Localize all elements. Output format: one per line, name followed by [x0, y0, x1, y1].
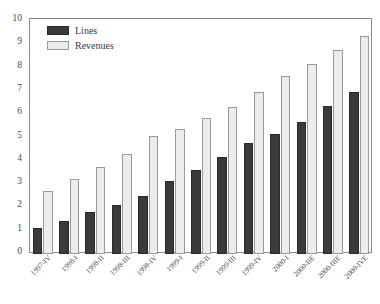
x-tick-label: 1999-I	[165, 254, 185, 274]
y-tick-label: 3	[17, 177, 22, 187]
x-tick-label: 1999-IV	[241, 254, 264, 277]
bar-lines	[112, 205, 122, 254]
bar-lines	[323, 106, 333, 254]
bar-revenues	[333, 50, 343, 254]
legend-label-lines: Lines	[75, 26, 97, 36]
x-tick-label: 1998-II	[84, 254, 105, 275]
x-tick-label: 1998-III	[109, 254, 132, 277]
legend-item-lines: Lines	[47, 24, 157, 37]
bar-lines	[33, 228, 43, 254]
y-tick-label: 7	[17, 84, 22, 94]
legend-label-revenues: Revenues	[75, 41, 114, 51]
y-tick-label: 4	[17, 154, 22, 164]
bar-lines	[297, 122, 307, 254]
bar-revenues	[360, 36, 370, 254]
legend-item-revenues: Revenues	[47, 39, 157, 52]
x-tick-label: 1998-IV	[135, 254, 158, 277]
bar-lines	[165, 181, 175, 254]
bar-revenues	[122, 154, 132, 254]
y-tick-label: 1	[17, 224, 22, 234]
bar-revenues	[307, 64, 317, 254]
x-axis: 1997-IV1998-I1998-II1998-III1998-IV1999-…	[30, 254, 371, 304]
legend-swatch-lines-icon	[47, 26, 69, 35]
bar-lines	[349, 92, 359, 254]
bar-group	[217, 18, 237, 254]
bar-lines	[270, 134, 280, 254]
y-axis: 012345678910	[0, 18, 29, 253]
x-tick-label: 1999-II	[190, 254, 211, 275]
x-tick-label: 2000-IIIE	[317, 254, 343, 280]
bar-group	[191, 18, 211, 254]
x-tick-label: 2000-I	[271, 254, 291, 274]
bar-revenues	[175, 129, 185, 254]
bar-revenues	[70, 179, 80, 254]
legend-swatch-revenues-icon	[47, 41, 69, 50]
y-tick-label: 0	[17, 247, 22, 257]
y-tick-label: 5	[17, 131, 22, 141]
bar-revenues	[228, 107, 238, 254]
y-tick-label: 2	[17, 201, 22, 211]
bar-lines	[244, 143, 254, 254]
bar-lines	[191, 170, 201, 254]
bar-revenues	[43, 191, 53, 254]
x-tick-label: 1998-I	[60, 254, 80, 274]
y-tick-label: 6	[17, 107, 22, 117]
bar-lines	[59, 221, 69, 254]
chart-legend: Lines Revenues	[47, 24, 157, 54]
y-tick-label: 9	[17, 38, 22, 48]
y-tick-label: 8	[17, 61, 22, 71]
bar-lines	[138, 196, 148, 254]
bar-group	[165, 18, 185, 254]
bar-revenues	[149, 136, 159, 254]
bar-group	[297, 18, 317, 254]
x-tick-label: 2000-IVE	[343, 254, 370, 281]
y-tick-label: 10	[13, 14, 23, 24]
bar-revenues	[254, 92, 264, 254]
x-tick-label: 2000-IIE	[292, 254, 317, 279]
bar-revenues	[202, 118, 212, 254]
bar-group	[349, 18, 369, 254]
x-tick-label: 1999-III	[214, 254, 237, 277]
bar-revenues	[281, 76, 291, 254]
bar-lines	[85, 212, 95, 254]
bar-lines	[217, 157, 227, 254]
bar-group	[270, 18, 290, 254]
bar-chart: 012345678910 1997-IV1998-I1998-II1998-II…	[0, 0, 380, 304]
bar-group	[244, 18, 264, 254]
x-tick-label: 1997-IV	[29, 254, 52, 277]
bar-group	[323, 18, 343, 254]
bar-revenues	[96, 167, 106, 254]
